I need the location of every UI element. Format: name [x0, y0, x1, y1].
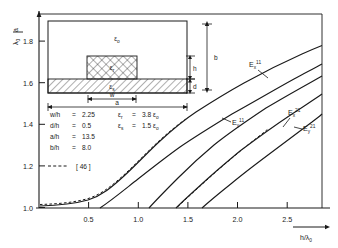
- y-axis-label: a λ0: [12, 28, 23, 45]
- dispersion-chart: 1.8 1.6 1.4 1.2 1.0 0.5 1.0 1.5 2.0 2.5 …: [0, 0, 338, 248]
- param-b-h-value: 8.0: [82, 144, 91, 151]
- x-axis-label-sub: 0: [309, 238, 312, 243]
- inset-dim-a-label: a: [115, 99, 119, 106]
- y-axis-label-numerator: a: [12, 28, 19, 32]
- x-tick-label-1.0: 1.0: [133, 215, 143, 224]
- y-tick-label-1.0: 1.0: [23, 204, 33, 213]
- param-d-h-eq: =: [72, 122, 76, 129]
- param-eps-s-eq: =: [132, 122, 136, 129]
- param-a-h-value: 13.5: [82, 133, 95, 140]
- curve-label-Ex21-sup: 21: [295, 108, 301, 113]
- inset-substrate-layer: [48, 79, 187, 93]
- y-axis-label-denominator: λ0: [12, 39, 21, 46]
- x-tick-label-0.5: 0.5: [84, 215, 94, 224]
- x-axis-label-arrow-head: [325, 225, 330, 229]
- param-w-h-value: 2.25: [82, 111, 95, 118]
- figure-root: 1.8 1.6 1.4 1.2 1.0 0.5 1.0 1.5 2.0 2.5 …: [0, 0, 338, 248]
- inset-dim-b-label: b: [214, 54, 218, 61]
- x-tick-label-2.0: 2.0: [233, 215, 243, 224]
- param-eps-r-value-main: 3.8 ε: [142, 111, 156, 118]
- param-eps-r-value-sub: o: [156, 115, 159, 120]
- x-tick-label-2.5: 2.5: [282, 215, 292, 224]
- y-tick-label-1.4: 1.4: [23, 120, 33, 129]
- param-d-h-value: 0.5: [82, 122, 91, 129]
- param-a-h-name: a/h: [50, 133, 59, 140]
- param-b-h-eq: =: [72, 144, 76, 151]
- curve-label-Ey11-sup: 11: [239, 118, 244, 123]
- inset-dim-d-label: d: [193, 83, 197, 90]
- eps-outer-subscript: o: [117, 39, 120, 44]
- x-tick-label-1.5: 1.5: [183, 215, 193, 224]
- y-tick-label-1.6: 1.6: [23, 79, 33, 88]
- param-eps-r-eq: =: [132, 111, 136, 118]
- param-eps-s-value-main: 1.5 ε: [142, 122, 156, 129]
- param-a-h-eq: =: [72, 133, 76, 140]
- y-tick-label-1.2: 1.2: [23, 162, 33, 171]
- curve-label-Ey21-sup: 21: [310, 124, 316, 129]
- legend-label: [ 46 ]: [76, 163, 91, 171]
- inset-dim-h-label: h: [193, 65, 197, 72]
- curve-label-Ex11-sup: 11: [256, 60, 261, 65]
- param-d-h-name: d/h: [50, 122, 59, 129]
- param-eps-s-value-sub: o: [156, 126, 159, 131]
- y-tick-label-1.8: 1.8: [23, 37, 33, 46]
- param-w-h-eq: =: [72, 111, 76, 118]
- param-w-h-name: w/h: [49, 111, 61, 118]
- y-axis-label-den-sub: 0: [16, 39, 21, 42]
- inset-dim-w-label: w: [109, 91, 115, 98]
- param-b-h-name: b/h: [50, 144, 59, 151]
- x-axis-label: h/λ0: [300, 234, 312, 243]
